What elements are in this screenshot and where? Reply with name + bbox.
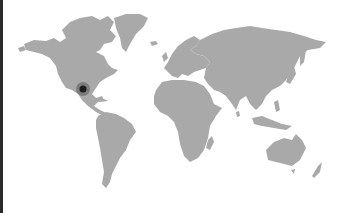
greenland [114,14,148,52]
british-isles [162,52,168,62]
sri-lanka [236,111,240,117]
africa [154,80,222,162]
iceland [150,41,158,46]
new-zealand [312,162,322,178]
world-map-frame: Southern United States (Texas / Gulf coa… [0,0,348,213]
south-america [96,112,136,188]
world-map [0,0,348,213]
southeast-asia-islands [252,116,292,130]
alaska-islands [18,46,26,52]
kamchatka [300,50,306,66]
australia [266,134,306,166]
location-marker-icon[interactable] [80,86,87,93]
philippines [274,100,280,112]
tasmania [291,169,295,174]
